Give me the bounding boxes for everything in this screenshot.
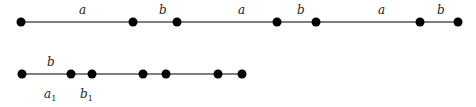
- point-dot: [162, 70, 171, 79]
- segment-label: a: [238, 3, 245, 17]
- segment-row-1: ababab: [17, 3, 463, 27]
- point-dot: [312, 18, 321, 27]
- point-dot: [238, 70, 247, 79]
- segment-label: b: [159, 3, 167, 17]
- point-dot: [17, 18, 26, 27]
- label-subscript: 1: [88, 94, 93, 103]
- point-dot: [454, 18, 463, 27]
- point-dot: [173, 18, 182, 27]
- segment-label: b: [47, 55, 55, 69]
- segment-label: b1: [80, 87, 93, 103]
- segment-label: b: [297, 3, 305, 17]
- point-dot: [416, 18, 425, 27]
- segment-label: b: [437, 3, 445, 17]
- point-dot: [67, 70, 76, 79]
- segment-diagram: abababba1b1: [0, 0, 476, 107]
- point-dot: [18, 70, 27, 79]
- point-dot: [273, 18, 282, 27]
- label-subscript: 1: [51, 94, 56, 103]
- segment-label: a: [79, 3, 86, 17]
- point-dot: [139, 70, 148, 79]
- point-dot: [88, 70, 97, 79]
- segment-label: a: [378, 3, 385, 17]
- point-dot: [129, 18, 138, 27]
- segment-label: a1: [44, 87, 56, 103]
- point-dot: [214, 70, 223, 79]
- segment-row-2: ba1b1: [18, 55, 247, 103]
